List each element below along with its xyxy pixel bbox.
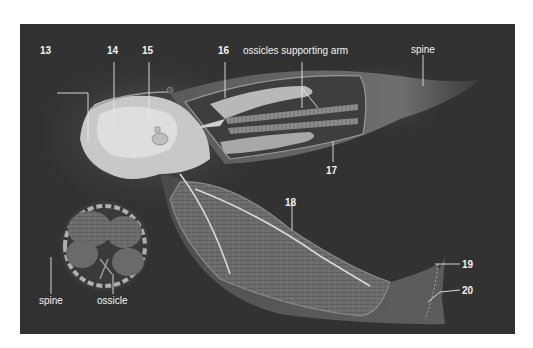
label-13: 13 (40, 45, 51, 56)
label-20: 20 (462, 285, 473, 296)
label-17: 17 (326, 165, 337, 176)
label-14: 14 (107, 45, 118, 56)
starfish-anatomy-illustration (20, 24, 515, 334)
label-16: 16 (218, 45, 229, 56)
label-18: 18 (285, 197, 296, 208)
label-spine-top: spine (411, 44, 435, 55)
label-ossicles-supporting-arm: ossicles supporting arm (243, 45, 348, 56)
label-19: 19 (462, 259, 473, 270)
arm-cross-section (60, 201, 150, 291)
diagram-panel: 13 14 15 16 ossicles supporting arm spin… (20, 24, 515, 334)
label-spine-bottom: spine (39, 295, 63, 306)
label-ossicle: ossicle (97, 295, 128, 306)
label-15: 15 (142, 45, 153, 56)
